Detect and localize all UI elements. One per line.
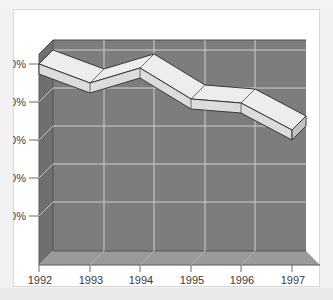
screenshot-root: 50% 40% 30% 20% 10% 1992 1993 1994 1995 … (0, 0, 333, 300)
y-tick-label-30: 30% (13, 134, 26, 146)
data-point-1995[interactable] (186, 99, 196, 109)
x-tick-label-1997: 1997 (281, 274, 305, 286)
x-tick-label-1995: 1995 (180, 274, 204, 286)
y-tick-label-40: 40% (13, 96, 26, 108)
data-point-1993[interactable] (85, 83, 95, 93)
bottom-gray-strip (0, 288, 333, 300)
data-point-1997[interactable] (287, 130, 297, 140)
line-chart-3d[interactable]: 50% 40% 30% 20% 10% 1992 1993 1994 1995 … (13, 9, 320, 287)
data-point-1992[interactable] (34, 64, 44, 74)
x-tick-label-1994: 1994 (129, 274, 153, 286)
y-tick-label-50: 50% (13, 58, 26, 70)
chart-title-cropped (0, 0, 333, 9)
chart-floor (39, 251, 320, 265)
data-point-1996[interactable] (236, 103, 246, 113)
y-tick-label-10: 10% (13, 210, 26, 222)
y-axis-ticks (29, 64, 39, 216)
data-point-1994[interactable] (135, 68, 145, 78)
x-axis-ticks (39, 265, 292, 272)
y-tick-label-20: 20% (13, 172, 26, 184)
x-tick-label-1996: 1996 (230, 274, 254, 286)
x-tick-label-1993: 1993 (79, 274, 103, 286)
x-tick-label-1992: 1992 (28, 274, 52, 286)
